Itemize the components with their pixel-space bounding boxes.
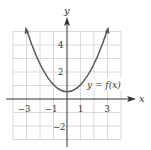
x-tick-label-1: 1: [78, 104, 83, 114]
function-graph: y x −3 −1 1 3 4 2 −2 y = f(x): [0, 0, 151, 150]
y-tick-label-neg2: −2: [53, 122, 66, 132]
x-tick-label-neg1: −1: [45, 104, 58, 114]
x-tick-label-3: 3: [105, 104, 110, 114]
x-axis-label: x: [139, 93, 145, 104]
y-axis-label: y: [63, 5, 70, 16]
y-tick-label-4: 4: [58, 40, 63, 50]
x-tick-label-neg3: −3: [18, 104, 31, 114]
function-label: y = f(x): [86, 80, 121, 90]
y-tick-label-2: 2: [58, 67, 63, 77]
